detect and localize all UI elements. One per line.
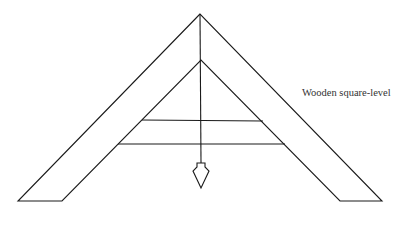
plumb-line — [200, 14, 201, 163]
square-level-diagram — [0, 0, 415, 226]
diagram-label: Wooden square-level — [302, 87, 391, 98]
plumb-bob-icon — [193, 163, 209, 188]
upper-crossbar — [142, 120, 263, 121]
